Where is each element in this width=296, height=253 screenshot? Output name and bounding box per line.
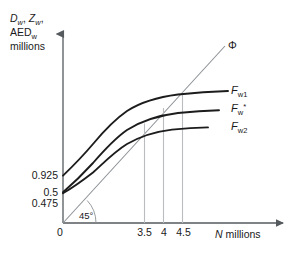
curve-label-fw2: Fw2 (231, 120, 247, 135)
curve-fw2 (63, 127, 208, 193)
y-tick-0-5: 0.5 (43, 186, 58, 198)
y-tick-labels: 0.925 0.5 0.475 (32, 169, 58, 209)
y-title-comma2: , (41, 12, 44, 24)
x-tick-4-5: 4.5 (176, 226, 191, 238)
drop-lines-group (145, 93, 183, 224)
svg-text:AEDw: AEDw (10, 26, 38, 41)
svg-text:Dw, Zw,: Dw, Zw, (10, 12, 44, 27)
y-title-millions: millions (10, 40, 45, 52)
curves-group (63, 91, 228, 193)
curve-label-fw2-sub: w2 (237, 126, 248, 135)
phi-label: Φ (228, 39, 237, 51)
x-tick-labels: 3.5 4 4.5 (137, 226, 191, 238)
curve-label-fw1-sub: w1 (237, 90, 248, 99)
angle-label-45: 45° (79, 210, 94, 221)
curve-label-fw1: Fw1 (231, 84, 247, 99)
chart-container: Dw, Zw, AEDw millions Nmillions 0.925 0.… (0, 0, 296, 253)
x-title-n: N (215, 228, 223, 240)
x-tick-3-5: 3.5 (137, 226, 152, 238)
svg-text:Nmillions: Nmillions (215, 228, 261, 240)
x-axis-title: Nmillions (215, 228, 261, 240)
curve-label-fw-star-asterisk: * (243, 102, 246, 111)
y-axis-title: Dw, Zw, AEDw millions (10, 12, 45, 52)
axes-group (63, 34, 283, 223)
origin-label: 0 (57, 226, 63, 238)
curve-labels-group: Fw1 Fw* Fw2 (231, 84, 247, 135)
y-tick-0-925: 0.925 (32, 169, 58, 181)
y-title-aed: AED (10, 26, 32, 38)
x-tick-4: 4 (161, 226, 167, 238)
y-tick-0-475: 0.475 (32, 197, 58, 209)
curve-label-fw-star: Fw* (231, 102, 246, 117)
x-title-millions: millions (226, 228, 261, 240)
economics-diagram: Dw, Zw, AEDw millions Nmillions 0.925 0.… (0, 0, 296, 253)
